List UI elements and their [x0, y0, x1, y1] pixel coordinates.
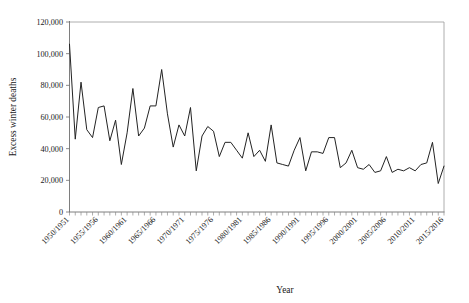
x-tick-label-group: 1950/19511955/19561960/19611965/19661970…	[40, 215, 446, 246]
x-tick-label: 1970/1971	[155, 215, 186, 246]
y-tick-label: 0	[59, 208, 63, 217]
x-tick-label: 1950/1951	[40, 215, 71, 246]
y-tick-group: 020,00040,00060,00080,000100,000120,000	[36, 18, 69, 217]
y-tick-label: 20,000	[40, 176, 63, 185]
x-tick-group	[70, 212, 445, 216]
y-tick-label: 80,000	[40, 81, 63, 90]
x-tick-label: 1995/1996	[299, 215, 330, 246]
x-tick-label: 1985/1986	[241, 215, 272, 246]
x-tick-label: 1990/1991	[270, 215, 301, 246]
x-axis-title: Year	[276, 285, 294, 295]
x-tick-label: 2010/2011	[386, 215, 417, 246]
x-tick-label: 2005/2006	[357, 215, 388, 246]
chart-figure: 020,00040,00060,00080,000100,000120,000 …	[0, 0, 469, 303]
y-tick-label: 120,000	[36, 18, 63, 27]
excess-winter-deaths-series-line	[70, 44, 445, 183]
y-tick-label: 40,000	[40, 145, 63, 154]
plot-frame	[70, 22, 445, 212]
y-axis-title: Excess winter deaths	[8, 77, 18, 156]
x-tick-label: 1980/1981	[213, 215, 244, 246]
x-tick-label: 1975/1976	[184, 215, 215, 246]
x-tick-label: 1965/1966	[126, 215, 157, 246]
x-tick-label: 2015/2016	[414, 215, 445, 246]
x-tick-label: 2000/2001	[328, 215, 359, 246]
excess-winter-deaths-line-chart: 020,00040,00060,00080,000100,000120,000 …	[0, 0, 469, 303]
x-tick-label: 1955/1956	[69, 215, 100, 246]
x-tick-label: 1960/1961	[97, 215, 128, 246]
y-tick-label: 60,000	[40, 113, 63, 122]
y-tick-label: 100,000	[36, 50, 63, 59]
